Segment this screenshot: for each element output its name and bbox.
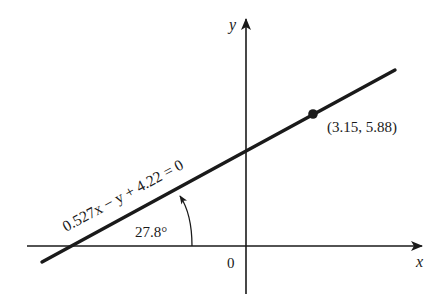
linear-equation-line <box>42 70 395 262</box>
y-axis-label: y <box>227 16 237 34</box>
angle-label: 27.8° <box>135 224 167 240</box>
diagram-canvas: y x 0 (3.15, 5.88) 27.8° 0.527x − y + 4.… <box>0 0 444 308</box>
angle-arc-arrow-icon <box>180 196 192 246</box>
point-marker <box>308 109 318 119</box>
origin-label: 0 <box>227 255 235 271</box>
point-coordinates-label: (3.15, 5.88) <box>327 119 397 136</box>
x-axis-label: x <box>415 253 423 270</box>
